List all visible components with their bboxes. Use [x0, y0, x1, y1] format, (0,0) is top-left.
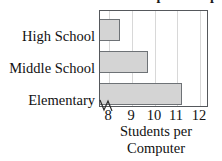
tick-label-11: 11 [169, 108, 183, 123]
chart-title-clipped: Students per Computer [0, 0, 222, 7]
tick-label-10: 10 [147, 108, 162, 123]
category-axis-labels: High School Middle School Elementary [0, 10, 97, 107]
value-axis-title-line-2: Computer [96, 140, 216, 157]
gridline-12 [200, 11, 201, 106]
category-label-high-school: High School [22, 29, 95, 44]
category-label-middle-school: Middle School [9, 61, 95, 76]
bar-high-school [100, 19, 120, 41]
value-axis-title-line-1: Students per [96, 123, 216, 140]
bar-chart-figure: Students per Computer High School Middle… [0, 0, 222, 161]
tick-label-8: 8 [104, 108, 111, 123]
category-label-elementary: Elementary [28, 93, 95, 108]
chart-title-text: Students per Computer [99, 0, 209, 4]
value-axis-tick-labels: 89101112 [99, 108, 208, 123]
plot-area [99, 10, 208, 107]
tick-label-12: 12 [192, 108, 207, 123]
bar-middle-school [100, 51, 148, 73]
value-axis-title: Students per Computer [96, 123, 216, 157]
tick-label-9: 9 [127, 108, 134, 123]
